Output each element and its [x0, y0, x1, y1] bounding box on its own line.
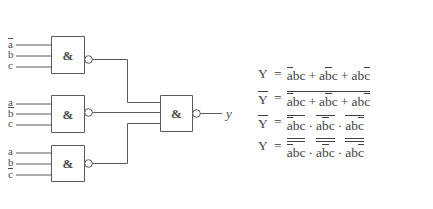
- literal-b-bar: b: [322, 116, 329, 134]
- letter-b: b: [8, 156, 14, 168]
- literal-c-bar: c: [358, 116, 364, 134]
- input-label-g3-c: c: [8, 168, 13, 180]
- equation-list: Y=abc+abc+abcY=abc+abc+abcY=abc·abc·abcY…: [258, 66, 370, 162]
- equation-rhs: abc+abc+abc: [287, 94, 371, 109]
- equation-lhs: Y: [258, 66, 273, 82]
- equation-term: abc: [287, 114, 306, 134]
- lhs-Y: Y: [258, 66, 268, 81]
- equation-lhs: Y: [258, 114, 273, 132]
- equation-term: abc: [319, 66, 338, 84]
- literal-b: b: [351, 118, 358, 133]
- literal-c: c: [299, 118, 305, 133]
- literal-b: b: [351, 145, 358, 160]
- logic-circuit: & & &: [0, 0, 240, 209]
- gate-1-invert-bubble: [85, 56, 93, 64]
- letter-c: c: [8, 117, 13, 129]
- letter-c: c: [8, 59, 13, 71]
- literal-a-bar: a: [287, 66, 293, 84]
- input-label-g1-c: c: [8, 60, 13, 71]
- overbar-c: c: [8, 168, 13, 180]
- nand-gate-2: &: [16, 96, 160, 133]
- equation-rhs: abc+abc+abc: [287, 66, 371, 84]
- lhs-Y: Y: [258, 138, 268, 153]
- operator-and-dot: ·: [305, 145, 316, 161]
- operator-and-dot: ·: [335, 118, 346, 134]
- equation-rhs: abc·abc·abc: [287, 138, 364, 161]
- operator-plus: +: [338, 68, 352, 84]
- literal-b-bar: b: [322, 143, 329, 161]
- gate-3-invert-bubble: [85, 160, 93, 168]
- literal-b-bar: b: [325, 66, 332, 84]
- literal-b-bar: b: [325, 92, 332, 110]
- equation-term: abc: [345, 114, 364, 134]
- diagram-canvas: & & &: [0, 0, 433, 209]
- equals-sign: =: [273, 114, 287, 130]
- equals-sign: =: [273, 90, 287, 106]
- eq-3: Y=abc·abc·abc: [258, 114, 370, 138]
- equation-term: abc: [316, 114, 335, 134]
- lhs-Y-bar: Y: [258, 114, 268, 132]
- nand-gate-output: &: [161, 96, 223, 132]
- literal-b: b: [357, 94, 364, 109]
- equation-term: abc: [351, 66, 370, 84]
- literal-a-bar: a: [287, 116, 293, 134]
- literal-c: c: [329, 118, 335, 133]
- literal-c-bar: c: [358, 143, 364, 161]
- operator-plus: +: [338, 94, 352, 110]
- equation-term: abc: [287, 138, 306, 161]
- literal-a-bar: a: [287, 143, 293, 161]
- equation-term: abc: [287, 92, 306, 110]
- input-label-g2-c: c: [8, 118, 13, 129]
- gate-2-invert-bubble: [85, 109, 93, 117]
- literal-c-bar: c: [364, 66, 370, 84]
- gate-3-symbol: &: [63, 156, 74, 171]
- nand-gate-1: &: [16, 37, 160, 103]
- equation-term: abc: [287, 66, 306, 84]
- equals-sign: =: [273, 138, 287, 154]
- equation-term: abc: [345, 138, 364, 161]
- gate-2-symbol: &: [63, 107, 74, 122]
- equals-sign: =: [273, 66, 287, 82]
- gate-1-symbol: &: [63, 48, 74, 63]
- eq-4: Y=abc·abc·abc: [258, 138, 370, 162]
- literal-a-bar: a: [287, 92, 293, 110]
- nand-gate-3: &: [16, 124, 160, 182]
- literal-c-bar: c: [364, 92, 370, 110]
- input-label-g3-b: b: [8, 157, 14, 168]
- literal-b: b: [357, 68, 364, 83]
- eq-1: Y=abc+abc+abc: [258, 66, 370, 90]
- equation-lhs: Y: [258, 90, 273, 108]
- equation-term: abc: [351, 92, 370, 110]
- gate-output-invert-bubble: [193, 110, 201, 118]
- equation-term: abc: [316, 138, 335, 161]
- operator-and-dot: ·: [305, 118, 316, 134]
- operator-and-dot: ·: [335, 145, 346, 161]
- literal-c: c: [329, 145, 335, 160]
- literal-c: c: [299, 145, 305, 160]
- rhs-overbar: abc+abc+abc: [287, 90, 371, 110]
- operator-plus: +: [305, 94, 319, 110]
- eq-2: Y=abc+abc+abc: [258, 90, 370, 114]
- equation-term: abc: [319, 92, 338, 110]
- equation-lhs: Y: [258, 138, 273, 154]
- gate-output-symbol: &: [171, 106, 182, 121]
- lhs-Y-bar: Y: [258, 90, 268, 108]
- operator-plus: +: [305, 68, 319, 84]
- output-label-y: y: [226, 106, 232, 122]
- equation-rhs: abc·abc·abc: [287, 114, 364, 134]
